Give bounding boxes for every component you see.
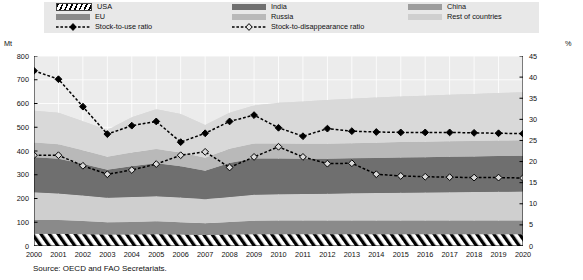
legend-column-2: IndiaRussiaStock-to-disappearance ratio xyxy=(232,2,364,32)
legend-item-label: Stock-to-use ratio xyxy=(95,23,152,31)
left-tick-label: 100 xyxy=(0,218,29,227)
legend-color-swatch-icon xyxy=(408,4,442,10)
area-fill-usa xyxy=(34,234,523,246)
legend-item-label: China xyxy=(447,3,466,11)
left-tick-label: 700 xyxy=(0,75,29,84)
right-tick-label: 40 xyxy=(529,73,537,82)
right-tick-label: 45 xyxy=(529,52,537,61)
legend-color-swatch-icon xyxy=(408,14,442,20)
left-axis-unit: Mt xyxy=(4,39,12,48)
legend-color-swatch-icon xyxy=(232,4,266,10)
right-tick-label: 15 xyxy=(529,178,537,187)
legend-item-label: Stock-to-disappearance ratio xyxy=(271,23,364,31)
legend-color-swatch-icon xyxy=(56,14,90,20)
legend-line-swatch-icon xyxy=(232,23,266,31)
legend-line-swatch-icon xyxy=(56,23,90,31)
legend-item-label: EU xyxy=(95,13,105,21)
legend-item-stock-to-use-ratio: Stock-to-use ratio xyxy=(56,22,152,32)
legend-hatch-swatch-icon xyxy=(56,3,92,11)
legend-item-eu: EU xyxy=(56,12,152,22)
chart-canvas xyxy=(34,56,523,246)
legend-item-stock-to-disappearance-ratio: Stock-to-disappearance ratio xyxy=(232,22,364,32)
figure-chart-stocks: USAEUStock-to-use ratio IndiaRussiaStock… xyxy=(0,0,583,280)
right-tick-label: 35 xyxy=(529,94,537,103)
plot-area xyxy=(34,56,523,246)
legend-item-china: China xyxy=(408,2,502,12)
left-tick-label: 400 xyxy=(0,147,29,156)
legend-item-usa: USA xyxy=(56,2,152,12)
source-note: Source: OECD and FAO Secretariats. xyxy=(33,264,167,273)
left-tick-label: 600 xyxy=(0,99,29,108)
right-tick-label: 20 xyxy=(529,157,537,166)
left-tick-label: 200 xyxy=(0,194,29,203)
x-tick-label: 2020 xyxy=(509,250,537,259)
legend-column-1: USAEUStock-to-use ratio xyxy=(56,2,152,32)
legend-color-swatch-icon xyxy=(232,14,266,20)
legend-item-india: India xyxy=(232,2,364,12)
legend-item-label: India xyxy=(271,3,287,11)
right-axis-unit: % xyxy=(565,39,572,48)
legend-column-3: ChinaRest of countries xyxy=(408,2,502,22)
legend-item-label: Russia xyxy=(271,13,293,21)
legend-item-rest-of-countries: Rest of countries xyxy=(408,12,502,22)
chart-legend: USAEUStock-to-use ratio IndiaRussiaStock… xyxy=(44,2,539,33)
left-tick-label: 500 xyxy=(0,123,29,132)
right-tick-label: 5 xyxy=(529,220,533,229)
legend-item-label: Rest of countries xyxy=(447,13,502,21)
left-tick-label: 300 xyxy=(0,170,29,179)
left-tick-label: 800 xyxy=(0,52,29,61)
right-tick-label: 10 xyxy=(529,199,537,208)
legend-item-russia: Russia xyxy=(232,12,364,22)
right-tick-label: 30 xyxy=(529,115,537,124)
legend-item-label: USA xyxy=(97,3,112,11)
right-tick-label: 25 xyxy=(529,136,537,145)
